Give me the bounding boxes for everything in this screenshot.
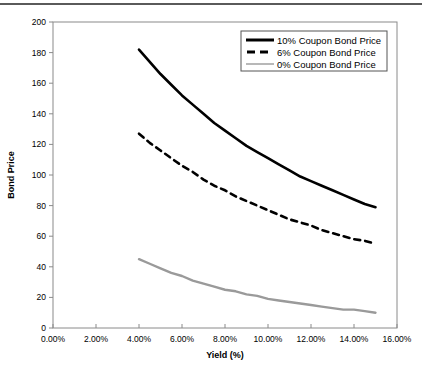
x-tick-label: 16.00% <box>383 334 412 344</box>
y-axis-ticks: 020406080100120140160180200 <box>32 17 53 333</box>
chart-legend: 10% Coupon Bond Price6% Coupon Bond Pric… <box>241 31 387 71</box>
x-tick-label: 10.00% <box>254 334 283 344</box>
y-tick-label: 200 <box>32 17 46 27</box>
y-tick-label: 80 <box>37 201 47 211</box>
y-tick-label: 20 <box>37 292 47 302</box>
x-axis-ticks: 0.00%2.00%4.00%6.00%8.00%10.00%12.00%14.… <box>41 324 412 344</box>
bond-price-chart: 020406080100120140160180200 0.00%2.00%4.… <box>0 0 422 365</box>
y-tick-label: 100 <box>32 170 46 180</box>
chart-canvas: 020406080100120140160180200 0.00%2.00%4.… <box>0 0 422 365</box>
series-line <box>139 50 376 208</box>
legend-item-label: 10% Coupon Bond Price <box>277 35 381 46</box>
x-tick-label: 0.00% <box>41 334 66 344</box>
y-tick-label: 0 <box>41 323 46 333</box>
series-line <box>139 259 376 313</box>
legend-item-label: 6% Coupon Bond Price <box>277 47 376 58</box>
legend-item-label: 0% Coupon Bond Price <box>277 59 376 70</box>
x-tick-label: 14.00% <box>340 334 369 344</box>
y-tick-label: 120 <box>32 139 46 149</box>
y-tick-label: 140 <box>32 109 46 119</box>
y-tick-label: 40 <box>37 262 47 272</box>
y-tick-label: 60 <box>37 231 47 241</box>
x-axis-title: Yield (%) <box>206 350 244 360</box>
x-tick-label: 4.00% <box>127 334 152 344</box>
x-tick-label: 6.00% <box>170 334 195 344</box>
series-line <box>139 134 376 244</box>
x-tick-label: 12.00% <box>297 334 326 344</box>
x-tick-label: 8.00% <box>213 334 238 344</box>
y-axis-title: Bond Price <box>6 151 16 199</box>
x-tick-label: 2.00% <box>84 334 109 344</box>
y-tick-label: 180 <box>32 48 46 58</box>
y-tick-label: 160 <box>32 78 46 88</box>
series-layer <box>139 50 376 313</box>
